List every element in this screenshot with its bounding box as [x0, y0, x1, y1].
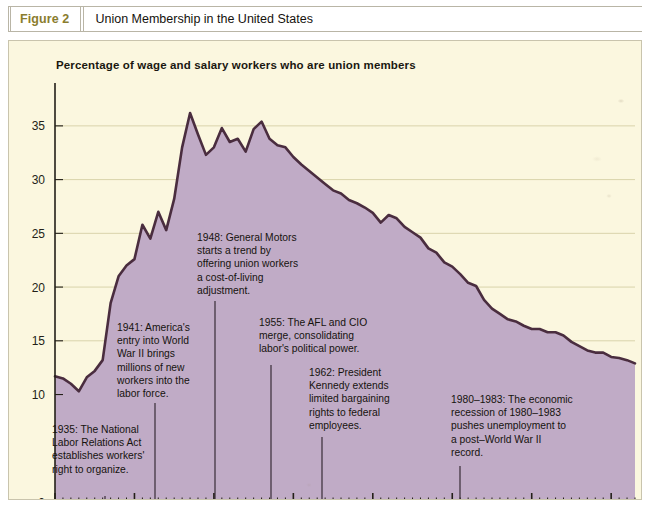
y-tick-label-25: 25: [32, 227, 46, 241]
annotation-1955-text: 1955: The AFL and CIOmerge, consolidatin…: [259, 317, 367, 354]
figure-label: Figure 2: [11, 12, 80, 26]
area-chart-plot: 0101520253035 19301940195019601970198019…: [9, 41, 642, 500]
y-tick-label-0: 0: [38, 496, 45, 501]
figure-header: Figure 2 Union Membership in the United …: [8, 6, 642, 32]
y-tick-label-30: 30: [32, 173, 46, 187]
y-tick-label-10: 10: [32, 388, 46, 402]
figure-title: Union Membership in the United States: [84, 12, 312, 26]
area-fill: [55, 113, 635, 500]
y-tick-label-35: 35: [32, 119, 46, 133]
chart-panel: Percentage of wage and salary workers wh…: [8, 40, 642, 500]
y-axis-tick-labels: 0101520253035: [32, 119, 46, 500]
y-tick-label-15: 15: [32, 334, 46, 348]
union-membership-area-series: [55, 113, 635, 500]
y-tick-label-20: 20: [32, 281, 46, 295]
